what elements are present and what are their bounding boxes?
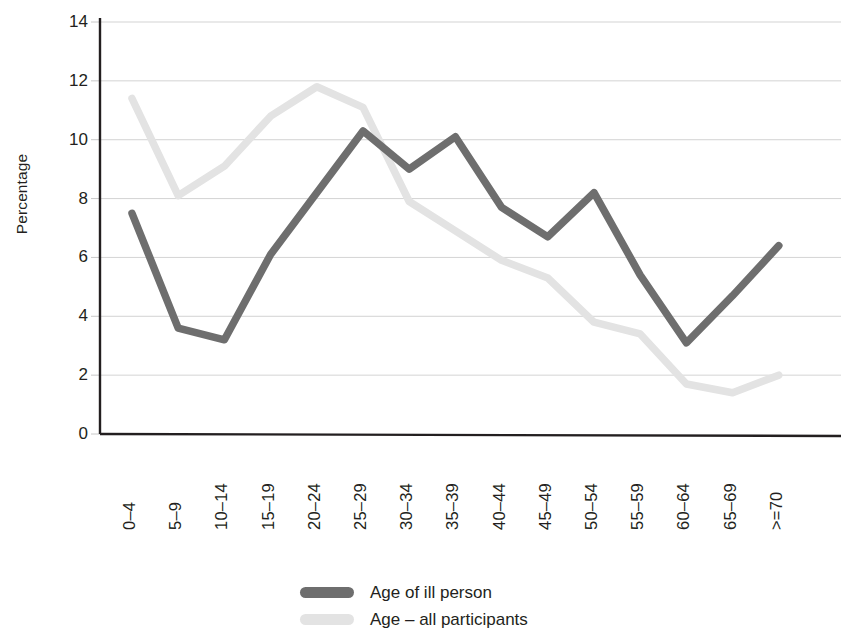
legend-item[interactable]: Age of ill person <box>300 579 720 606</box>
x-axis-tick-label: 20–24 <box>305 483 324 530</box>
x-axis-tick-label: 45–49 <box>536 483 555 530</box>
x-axis-tick-label: 60–64 <box>674 483 693 530</box>
x-axis-tick-label: 5–9 <box>166 502 185 530</box>
legend-swatch-icon <box>300 587 354 598</box>
legend-item[interactable]: Age – all participants <box>300 606 720 633</box>
chart-plot-container: Percentage 14121086420 0–45–910–1415–192… <box>0 0 841 545</box>
legend-item-label: Age of ill person <box>370 583 492 603</box>
x-axis-tick-label: 15–19 <box>259 483 278 530</box>
x-axis-tick-label: 10–14 <box>212 483 231 530</box>
x-axis-tick-label: 50–54 <box>582 483 601 530</box>
x-axis-tick-label: 65–69 <box>721 483 740 530</box>
x-axis-tick-label: 30–34 <box>397 483 416 530</box>
x-axis-tick-label: 40–44 <box>490 483 509 530</box>
x-axis-tick-label: >=70 <box>767 492 786 530</box>
chart-legend: Age of ill personAge – all participants <box>300 579 720 633</box>
legend-swatch-icon <box>300 614 354 625</box>
x-axis-tick-label: 55–59 <box>628 483 647 530</box>
legend-item-label: Age – all participants <box>370 610 528 630</box>
x-axis-tick-label: 0–4 <box>120 502 139 530</box>
x-axis-tick-labels: 0–45–910–1415–1920–2425–2930–3435–3940–4… <box>0 0 841 545</box>
x-axis-tick-label: 25–29 <box>351 483 370 530</box>
chart-figure: Percentage 14121086420 0–45–910–1415–192… <box>0 0 841 637</box>
x-axis-tick-label: 35–39 <box>443 483 462 530</box>
